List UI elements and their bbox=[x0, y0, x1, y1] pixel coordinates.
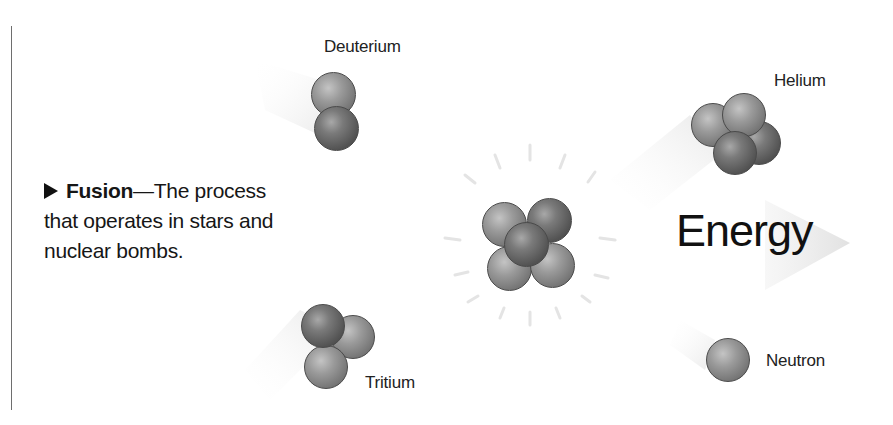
energy-label: Energy bbox=[676, 205, 813, 257]
proton-sphere bbox=[722, 93, 766, 137]
tritium-label: Tritium bbox=[365, 373, 415, 393]
neutron-sphere bbox=[304, 345, 348, 389]
deuterium-label: Deuterium bbox=[324, 37, 401, 57]
neutron-label: Neutron bbox=[766, 351, 825, 371]
helium-label: Helium bbox=[774, 71, 826, 91]
neutron-sphere bbox=[706, 338, 750, 382]
neutron-sphere bbox=[314, 106, 359, 151]
nucleon-sphere bbox=[504, 222, 549, 267]
neutron-sphere bbox=[713, 131, 757, 175]
proton-sphere bbox=[301, 304, 345, 348]
